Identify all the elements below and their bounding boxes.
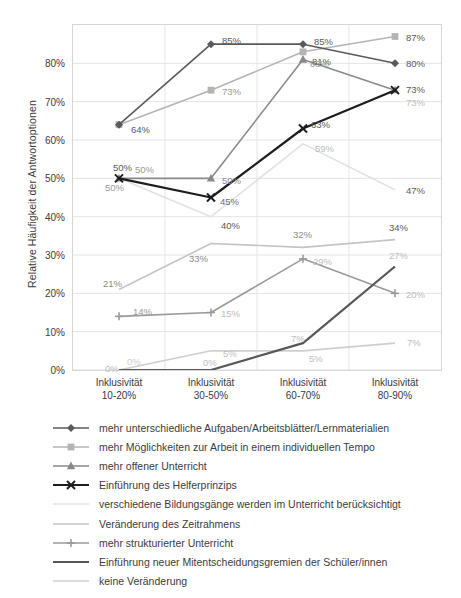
- data-label: 85%: [222, 35, 241, 46]
- plot-area: [72, 24, 442, 371]
- plot-svg: [73, 25, 441, 370]
- marker-square: [68, 443, 75, 450]
- data-label: 50%: [222, 175, 241, 186]
- data-label: 50%: [135, 164, 154, 175]
- legend-marker-none-icon: [52, 496, 90, 512]
- legend-item[interactable]: mehr strukturierter Unterricht: [52, 533, 233, 552]
- data-label: 40%: [221, 219, 240, 230]
- marker-plus: [299, 255, 307, 263]
- x-axis-tick: Inklusivität80-90%: [372, 376, 419, 402]
- data-label: 73%: [222, 86, 241, 97]
- data-label: 5%: [223, 347, 237, 358]
- data-label: 21%: [103, 277, 122, 288]
- data-label: 45%: [220, 195, 239, 206]
- x-axis-tick: Inklusivität30-50%: [188, 376, 235, 402]
- data-label: 64%: [131, 123, 150, 134]
- x-axis-tick: Inklusivität60-70%: [280, 376, 327, 402]
- marker-plus: [115, 312, 123, 320]
- data-label: 85%: [314, 36, 333, 47]
- marker-plus: [67, 539, 75, 547]
- legend-item[interactable]: keine Veränderung: [52, 572, 187, 591]
- marker-plus: [207, 309, 215, 317]
- x-tick-line1: Inklusivität: [372, 377, 419, 388]
- legend-label: Einführung des Helferprinzips: [99, 479, 237, 491]
- y-axis-tick: 80%: [45, 58, 65, 69]
- data-label: 0%: [105, 363, 119, 374]
- y-axis-tick: 0%: [51, 365, 65, 376]
- legend-item[interactable]: mehr offener Unterricht: [52, 456, 207, 475]
- marker-diamond: [299, 40, 307, 48]
- legend-label: Veränderung des Zeitrahmens: [99, 518, 240, 530]
- data-label: 32%: [293, 229, 312, 240]
- legend-label: keine Veränderung: [99, 575, 187, 587]
- data-label: 0%: [127, 356, 141, 367]
- marker-square: [392, 33, 399, 40]
- y-axis-tick: 20%: [45, 288, 65, 299]
- x-tick-line1: Inklusivität: [280, 377, 327, 388]
- x-tick-line2: 30-50%: [194, 390, 228, 401]
- data-label: 15%: [221, 307, 240, 318]
- y-axis-tick: 50%: [45, 173, 65, 184]
- y-axis-tick: 10%: [45, 326, 65, 337]
- data-label: 73%: [406, 84, 425, 95]
- legend-label: mehr offener Unterricht: [99, 460, 207, 472]
- legend-item[interactable]: Einführung neuer Mitentscheidungsgremien…: [52, 552, 387, 571]
- legend-label: mehr Möglichkeiten zur Arbeit in einem i…: [99, 441, 375, 453]
- legend-label: verschiedene Bildungsgänge werden im Unt…: [99, 498, 401, 510]
- legend-item[interactable]: Veränderung des Zeitrahmens: [52, 514, 240, 533]
- legend-marker-none-icon: [52, 516, 90, 532]
- data-label: 27%: [389, 249, 408, 260]
- legend-marker-x-icon: [52, 477, 90, 493]
- y-axis-tick: 40%: [45, 211, 65, 222]
- data-label: 34%: [389, 221, 408, 232]
- data-label: 7%: [291, 333, 305, 344]
- data-label: 50%: [105, 182, 124, 193]
- legend-item[interactable]: Einführung des Helferprinzips: [52, 476, 237, 495]
- chart-legend: mehr unterschiedliche Aufgaben/Arbeitsbl…: [0, 418, 461, 598]
- y-axis-tick: 70%: [45, 96, 65, 107]
- legend-label: mehr strukturierter Unterricht: [99, 537, 233, 549]
- data-label: 63%: [311, 118, 330, 129]
- line-chart: Relative Häufigkeit der Antwortoptionen …: [0, 0, 461, 412]
- data-label: 20%: [406, 289, 425, 300]
- legend-item[interactable]: mehr unterschiedliche Aufgaben/Arbeitsbl…: [52, 418, 389, 437]
- legend-marker-triangle-icon: [52, 458, 90, 474]
- data-label: 0%: [203, 357, 217, 368]
- marker-square: [208, 87, 215, 94]
- y-axis-tick: 60%: [45, 135, 65, 146]
- x-tick-line1: Inklusivität: [188, 377, 235, 388]
- marker-diamond: [391, 59, 399, 67]
- chart-page: Relative Häufigkeit der Antwortoptionen …: [0, 0, 461, 598]
- data-label: 87%: [406, 31, 425, 42]
- legend-marker-none-icon: [52, 554, 90, 570]
- x-axis-tick: Inklusivität10-20%: [96, 376, 143, 402]
- data-label: 7%: [407, 337, 421, 348]
- marker-plus: [391, 289, 399, 297]
- legend-marker-square-icon: [52, 439, 90, 455]
- y-axis-tick: 30%: [45, 250, 65, 261]
- data-label: 59%: [315, 142, 334, 153]
- data-label: 29%: [313, 255, 332, 266]
- data-label: 5%: [309, 352, 323, 363]
- legend-label: mehr unterschiedliche Aufgaben/Arbeitsbl…: [99, 422, 389, 434]
- data-label: 73%: [406, 97, 425, 108]
- legend-item[interactable]: mehr Möglichkeiten zur Arbeit in einem i…: [52, 437, 375, 456]
- data-label: 33%: [189, 252, 208, 263]
- y-axis-tick-labels: 0%10%20%30%40%50%60%70%80%: [0, 25, 71, 370]
- marker-diamond: [67, 424, 75, 432]
- x-tick-line2: 10-20%: [102, 390, 136, 401]
- legend-item[interactable]: verschiedene Bildungsgänge werden im Unt…: [52, 495, 401, 514]
- marker-square: [300, 48, 307, 55]
- legend-marker-none-icon: [52, 573, 90, 589]
- legend-marker-diamond-icon: [52, 420, 90, 436]
- x-tick-line2: 60-70%: [286, 390, 320, 401]
- data-label: 50%: [113, 162, 132, 173]
- x-tick-line1: Inklusivität: [96, 377, 143, 388]
- data-label: 47%: [406, 184, 425, 195]
- legend-marker-plus-icon: [52, 535, 90, 551]
- data-label: 14%: [133, 306, 152, 317]
- marker-triangle: [299, 55, 307, 63]
- gridlines: [73, 25, 441, 370]
- x-tick-line2: 80-90%: [378, 390, 412, 401]
- legend-label: Einführung neuer Mitentscheidungsgremien…: [99, 556, 387, 568]
